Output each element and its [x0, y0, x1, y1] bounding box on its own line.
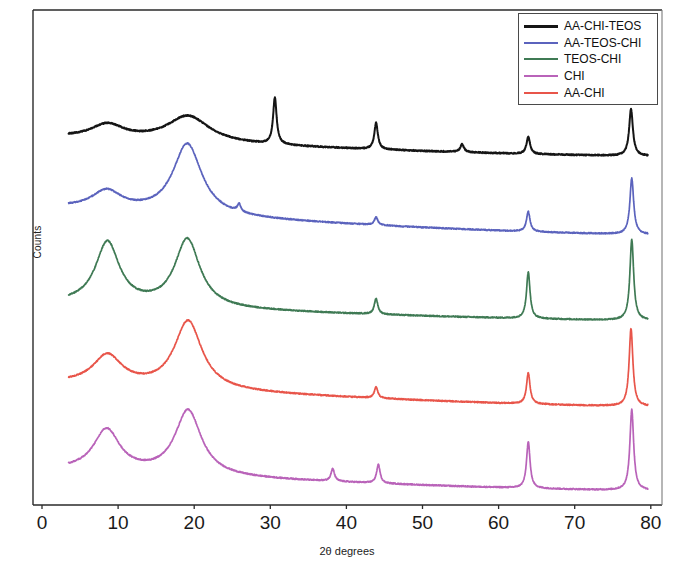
legend-swatch-aa-teos-chi: [524, 42, 558, 44]
legend-item-aa-teos-chi[interactable]: AA-TEOS-CHI: [524, 35, 652, 52]
legend-label-aa-chi: AA-CHI: [564, 87, 605, 99]
legend-item-aa-chi-teos[interactable]: AA-CHI-TEOS: [524, 18, 652, 35]
curve-chi: [69, 409, 648, 490]
legend-item-teos-chi[interactable]: TEOS-CHI: [524, 51, 652, 68]
curve-aa-chi: [69, 320, 648, 406]
legend: AA-CHI-TEOS AA-TEOS-CHI TEOS-CHI CHI AA-…: [518, 13, 658, 105]
legend-item-aa-chi[interactable]: AA-CHI: [524, 84, 652, 101]
x-tick-label-0: 0: [20, 512, 64, 534]
x-axis-label-text: 2θ degrees: [319, 545, 374, 557]
x-tick-label-70: 70: [553, 512, 597, 534]
x-tick-label-80: 80: [629, 512, 673, 534]
x-tick-label-30: 30: [248, 512, 292, 534]
curve-aa-teos-chi: [69, 143, 648, 234]
diffraction-curves: [69, 97, 648, 490]
curve-teos-chi: [69, 238, 648, 320]
legend-label-aa-teos-chi: AA-TEOS-CHI: [564, 37, 641, 49]
legend-swatch-chi: [524, 75, 558, 77]
legend-label-teos-chi: TEOS-CHI: [564, 53, 621, 65]
xrd-figure: Counts 2θ degrees 01020304050607080 AA-C…: [0, 0, 682, 567]
x-tick-label-40: 40: [324, 512, 368, 534]
legend-label-aa-chi-teos: AA-CHI-TEOS: [564, 20, 641, 32]
legend-item-chi[interactable]: CHI: [524, 68, 652, 85]
x-tick-label-20: 20: [172, 512, 216, 534]
legend-swatch-aa-chi: [524, 92, 558, 94]
x-tick-label-50: 50: [401, 512, 445, 534]
legend-label-chi: CHI: [564, 70, 585, 82]
legend-swatch-aa-chi-teos: [524, 25, 558, 28]
x-tick-label-10: 10: [96, 512, 140, 534]
curve-aa-chi-teos: [69, 97, 648, 155]
x-tick-label-60: 60: [477, 512, 521, 534]
legend-swatch-teos-chi: [524, 58, 558, 60]
y-axis-label: Counts: [32, 202, 43, 282]
x-axis-label: 2θ degrees: [0, 545, 682, 557]
